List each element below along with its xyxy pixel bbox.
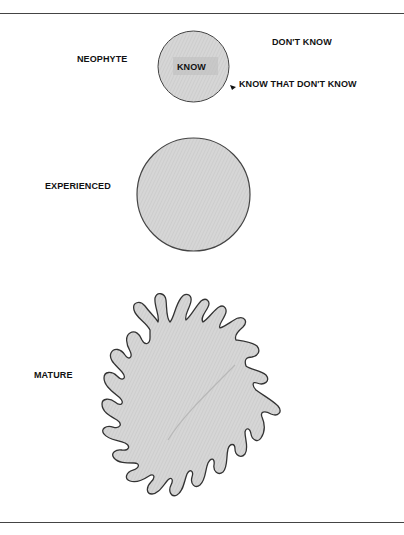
boundary-arrow-icon [230,85,236,90]
know-label: KNOW [177,61,206,72]
know-that-dont-know-label: KNOW THAT DON'T KNOW [239,78,357,89]
experienced-circle [137,138,250,251]
mature-splat [102,294,280,496]
dont-know-label: DON'T KNOW [272,36,332,47]
stage-label-neophyte: NEOPHYTE [77,53,127,64]
stage-label-mature: MATURE [34,369,73,380]
stage-label-experienced: EXPERIENCED [45,180,111,191]
